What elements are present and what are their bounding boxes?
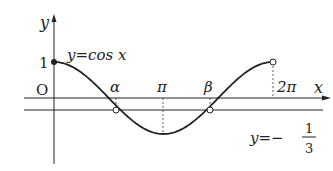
curve-label-text: y=cos x	[66, 46, 127, 64]
y-axis-arrow-icon	[52, 14, 57, 22]
beta-label: β	[203, 78, 213, 96]
cosine-diagram: y x O 1 y=cos x α π β 2π y=− 1 3	[0, 0, 333, 171]
line-label-lhs: y=−	[249, 129, 284, 147]
x-axis-arrow-icon	[322, 96, 331, 101]
x-axis-label: x	[314, 78, 323, 97]
y-axis-label: y	[39, 13, 50, 32]
alpha-intersection-open	[113, 107, 119, 113]
beta-intersection-open	[207, 107, 213, 113]
start-point-filled	[51, 59, 57, 65]
curve-label: y=cos x	[66, 46, 127, 64]
two-pi-label: 2π	[276, 78, 298, 96]
pi-label: π	[156, 78, 168, 96]
y-tick-one: 1	[39, 54, 49, 72]
end-point-open	[270, 59, 276, 65]
line-label-numerator: 1	[305, 121, 313, 136]
line-label-denominator: 3	[305, 141, 313, 156]
alpha-label: α	[110, 78, 120, 96]
origin-label: O	[36, 81, 48, 99]
